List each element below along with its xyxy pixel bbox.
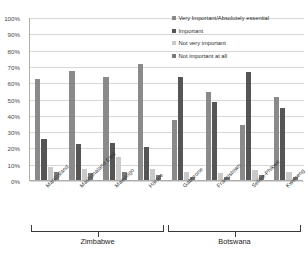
- bar: [280, 108, 285, 180]
- bar-group: [64, 18, 98, 180]
- bracket: [31, 225, 164, 232]
- legend-label: Important: [179, 28, 204, 34]
- legend-swatch-icon: [172, 16, 176, 20]
- y-axis-tick-label: 20%: [0, 145, 20, 152]
- legend-label: Not very important: [179, 40, 226, 46]
- legend-swatch-icon: [172, 54, 176, 58]
- legend-swatch-icon: [172, 29, 176, 33]
- bar-group: [30, 18, 64, 180]
- bar: [41, 139, 46, 180]
- bar: [240, 125, 245, 180]
- legend-item[interactable]: Not important at all: [172, 53, 269, 59]
- bar-group: [132, 18, 166, 180]
- y-axis-tick-label: 70%: [0, 64, 20, 71]
- legend: Very Important/Absolutely essentialImpor…: [172, 15, 269, 59]
- y-axis-tick-label: 100%: [0, 15, 20, 22]
- y-axis-tick-label: 40%: [0, 113, 20, 120]
- bar: [172, 120, 177, 180]
- x-axis-label-cell: Mashonaland East: [63, 182, 97, 222]
- y-axis-tick-label: 0%: [0, 178, 20, 185]
- x-axis-label-cell: Masvingo: [98, 182, 132, 222]
- legend-item[interactable]: Very Important/Absolutely essential: [172, 15, 269, 21]
- legend-item[interactable]: Not very important: [172, 40, 269, 46]
- x-axis-label-cell: Selibe-Phikwe: [235, 182, 269, 222]
- legend-label: Not important at all: [179, 53, 228, 59]
- y-axis-tick-label: 90%: [0, 31, 20, 38]
- country-brackets: ZimbabweBotswana: [29, 225, 303, 256]
- x-axis-label-cell: Manicaland: [29, 182, 63, 222]
- legend-item[interactable]: Important: [172, 28, 269, 34]
- bar-group: [269, 18, 303, 180]
- x-axis-label-cell: Kweneng: [269, 182, 303, 222]
- y-axis-tick-label: 50%: [0, 97, 20, 104]
- bar: [110, 143, 115, 180]
- bar: [35, 79, 40, 180]
- x-axis-labels: ManicalandMashonaland EastMasvingoHarare…: [29, 182, 303, 222]
- bracket: [168, 225, 301, 232]
- legend-label: Very Important/Absolutely essential: [179, 15, 270, 21]
- bar-chart: 0%10%20%30%40%50%60%70%80%90%100% Manica…: [0, 0, 308, 256]
- country-label: Botswana: [168, 237, 301, 246]
- y-axis-tick-label: 10%: [0, 162, 20, 169]
- x-axis-label-cell: Francistown: [200, 182, 234, 222]
- bar: [138, 64, 143, 180]
- country-label: Zimbabwe: [31, 237, 164, 246]
- bar: [144, 147, 149, 180]
- y-axis-tick-label: 30%: [0, 129, 20, 136]
- y-axis-tick-label: 60%: [0, 80, 20, 87]
- x-axis-label-cell: Gaborone: [166, 182, 200, 222]
- bar: [76, 144, 81, 180]
- bar: [246, 72, 251, 180]
- bar: [212, 102, 217, 180]
- y-axis-tick-label: 80%: [0, 48, 20, 55]
- bar: [206, 92, 211, 180]
- legend-swatch-icon: [172, 41, 176, 45]
- bar: [69, 71, 74, 180]
- bar: [178, 77, 183, 180]
- x-axis-label-cell: Harare: [132, 182, 166, 222]
